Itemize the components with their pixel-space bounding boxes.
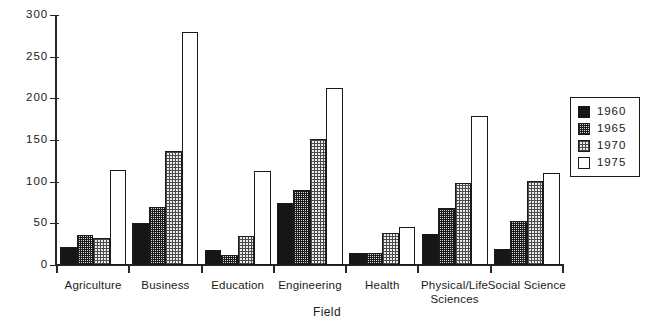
y-axis-tick-label: 100 — [12, 182, 48, 183]
y-axis-tick-label-text: 50 — [18, 217, 48, 229]
legend-swatch-1965 — [578, 123, 590, 135]
x-axis-tick — [345, 264, 347, 273]
bar-business-1975 — [182, 32, 199, 265]
bar-education-1970 — [238, 236, 255, 265]
x-axis-tick — [201, 264, 203, 273]
legend-item-1970: 1970 — [578, 137, 633, 154]
legend-item-1965: 1965 — [578, 120, 633, 137]
y-axis-tick-label: 250 — [12, 57, 48, 58]
y-axis-tick-label-text: 250 — [18, 51, 48, 63]
legend-label-1965: 1965 — [597, 123, 626, 135]
legend: 1960196519701975 — [570, 97, 640, 177]
y-axis-tick-label-text: 150 — [18, 134, 48, 146]
bar-health-1960 — [349, 253, 366, 265]
bar-engineering-1970 — [310, 139, 327, 265]
legend-label-1970: 1970 — [597, 140, 626, 152]
bar-business-1970 — [165, 151, 182, 265]
y-axis-tick-label: 150 — [12, 140, 48, 141]
bar-agriculture-1965 — [77, 235, 94, 265]
x-axis-tick — [128, 264, 130, 273]
y-axis-tick-label-text: 0 — [18, 259, 48, 271]
bar-social-science-1975 — [543, 173, 560, 265]
y-axis-tick-label: 50 — [12, 223, 48, 224]
x-axis-tick — [273, 264, 275, 273]
bar-education-1960 — [205, 250, 222, 265]
bar-physical-life-sciences-1975 — [471, 116, 488, 265]
legend-swatch-1975 — [578, 157, 590, 169]
bar-engineering-1960 — [277, 203, 294, 265]
x-axis-title-text: Field — [313, 305, 341, 319]
bar-social-science-1970 — [527, 181, 544, 265]
x-axis-tick — [562, 264, 564, 273]
y-axis-tick-label: 0 — [12, 265, 48, 266]
y-axis-tick-label: 200 — [12, 98, 48, 99]
y-axis-tick-label-text: 100 — [18, 176, 48, 188]
x-axis-tick — [56, 264, 58, 273]
bar-physical-life-sciences-1970 — [455, 183, 472, 265]
bar-engineering-1965 — [293, 190, 310, 265]
x-axis-category-label: Social Science — [479, 279, 575, 293]
bar-engineering-1975 — [326, 88, 343, 266]
bar-chart-figure: 050100150200250300 AgricultureBusinessEd… — [0, 0, 646, 327]
bar-group — [346, 15, 418, 265]
bar-social-science-1965 — [510, 221, 527, 265]
bar-group — [274, 15, 346, 265]
bar-education-1975 — [254, 171, 271, 265]
bar-business-1965 — [149, 207, 166, 265]
bar-health-1965 — [366, 253, 383, 265]
bar-physical-life-sciences-1960 — [422, 234, 439, 265]
bar-social-science-1960 — [494, 249, 511, 265]
legend-label-1960: 1960 — [597, 106, 626, 118]
bar-group — [57, 15, 129, 265]
bar-group — [418, 15, 490, 265]
bar-agriculture-1960 — [60, 247, 77, 265]
y-axis-tick-label: 300 — [12, 15, 48, 16]
legend-swatch-1960 — [578, 106, 590, 118]
x-axis-title: Field — [0, 305, 646, 319]
x-axis-tick — [417, 264, 419, 273]
y-axis-tick-label-text: 200 — [18, 92, 48, 104]
y-axis-tick-label-text: 300 — [18, 9, 48, 21]
x-axis-tick — [490, 264, 492, 273]
legend-item-1960: 1960 — [578, 103, 633, 120]
bar-group — [491, 15, 563, 265]
bar-health-1975 — [399, 227, 416, 265]
bar-group — [129, 15, 201, 265]
bar-business-1960 — [132, 223, 149, 265]
legend-swatch-1970 — [578, 140, 590, 152]
bar-physical-life-sciences-1965 — [438, 208, 455, 265]
legend-item-1975: 1975 — [578, 154, 633, 171]
bar-agriculture-1970 — [93, 238, 110, 266]
legend-label-1975: 1975 — [597, 157, 626, 169]
bar-education-1965 — [221, 255, 238, 265]
bar-health-1970 — [382, 233, 399, 266]
bar-agriculture-1975 — [110, 170, 127, 265]
plot-area — [57, 15, 563, 265]
bar-group — [202, 15, 274, 265]
